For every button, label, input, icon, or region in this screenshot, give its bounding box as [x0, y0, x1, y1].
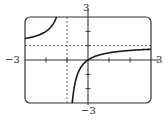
y-min-label: −3: [81, 106, 96, 116]
left-branch: [25, 17, 57, 39]
right-branch: [72, 49, 151, 103]
x-min-label: −3: [5, 55, 20, 65]
chart-plot: [0, 0, 168, 120]
x-max-label: 3: [156, 55, 162, 65]
y-max-label: 3: [83, 3, 89, 13]
